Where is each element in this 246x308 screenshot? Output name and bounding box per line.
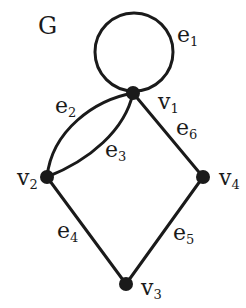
- edge-e5: [126, 177, 203, 284]
- vertex-v3: [119, 277, 133, 291]
- graph-diagram: G v1 v2 v3 v4 e1 e2 e3 e4 e5 e6: [0, 0, 246, 308]
- vertex-v2: [40, 170, 54, 184]
- vertex-v1-label: v1: [157, 89, 179, 116]
- vertex-v3-label: v3: [140, 275, 162, 302]
- vertex-v1: [126, 86, 140, 100]
- graph-name-label: G: [38, 12, 57, 40]
- edge-e5-label: e5: [173, 220, 194, 247]
- edge-e3-label: e3: [105, 137, 126, 164]
- edge-e4-label: e4: [57, 218, 78, 245]
- edge-e6-label: e6: [176, 115, 197, 142]
- vertex-v4-label: v4: [218, 165, 240, 192]
- edge-e1-label: e1: [177, 22, 198, 49]
- edge-e1-loop: [95, 13, 173, 91]
- vertex-v4: [196, 170, 210, 184]
- vertex-v2-label: v2: [16, 165, 38, 192]
- edge-e2-label: e2: [55, 93, 76, 120]
